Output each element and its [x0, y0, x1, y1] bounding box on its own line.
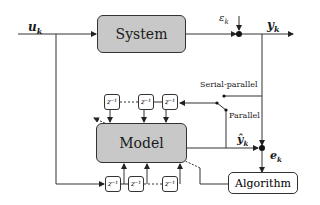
label-parallel: Parallel [229, 111, 260, 120]
label-model-output: ŷk [237, 133, 248, 148]
delay-bottom-1: z⁻¹ [105, 176, 121, 192]
label-input: uk [28, 20, 42, 36]
label-noise: εk [219, 12, 229, 26]
label-output: yk [267, 18, 280, 34]
algorithm-block: Algorithm [228, 172, 298, 194]
label-serial-parallel: Serial-parallel [200, 80, 258, 89]
model-label: Model [119, 135, 164, 151]
delay-bottom-2: z⁻¹ [128, 176, 144, 192]
algorithm-label: Algorithm [235, 177, 291, 190]
delay-top-2: z⁻¹ [138, 94, 154, 110]
sum-junction-error [259, 145, 265, 151]
delay-top-1: z⁻¹ [104, 94, 120, 110]
model-block: Model [96, 123, 187, 163]
delay-top-3: z⁻¹ [162, 94, 178, 110]
system-label: System [116, 26, 168, 42]
delay-bottom-3: z⁻¹ [162, 176, 178, 192]
sum-junction-output [236, 31, 242, 37]
system-block: System [97, 15, 186, 53]
label-error: ek [270, 149, 282, 164]
